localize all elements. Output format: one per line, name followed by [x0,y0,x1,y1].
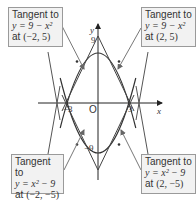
tangent-line-upper-right [98,36,134,111]
x-tick-neg3: −3 [63,104,73,114]
callout-equation: y = x² − 9 [15,178,60,189]
callout-top-right: Tangent to y = 9 − x² at (2, 5) [141,7,196,47]
y-tick-neg9: −9 [84,143,94,153]
callout-title: Tangent to [145,9,192,20]
tangent-point-lower-right [118,143,121,146]
callout-title: Tangent to [12,9,59,20]
callout-point: at (2, −5) [145,178,192,189]
callout-equation: y = 9 − x² [145,20,192,31]
callout-title: Tangent to [15,156,60,178]
x-axis-label: x [156,106,161,116]
y-tick-9: 9 [91,35,96,45]
tangent-line-upper-left [62,36,98,111]
callout-bottom-right: Tangent to y = x² − 9 at (2, −5) [141,154,196,194]
pointer-top-left [62,26,84,69]
tangent-point-upper-left [76,60,79,63]
callout-point: at (−2, 5) [12,31,59,42]
pointer-bottom-left [64,130,84,170]
outer-line-left-top [48,52,60,120]
y-axis-label: y [89,25,94,35]
callout-title: Tangent to [145,156,192,167]
tangent-point-upper-right [118,60,121,63]
callout-point: at (−2, −5) [15,189,60,200]
callout-point: at (2, 5) [145,31,192,42]
pointer-bottom-right [121,130,141,170]
callout-equation: y = x² − 9 [145,167,192,178]
x-tick-3: 3 [128,104,133,114]
callout-bottom-left: Tangent to y = x² − 9 at (−2, −5) [11,154,64,194]
origin-label: O [89,104,97,115]
outer-line-right-bottom [136,86,148,154]
outer-line-right-top [136,52,148,120]
callout-top-left: Tangent to y = 9 − x² at (−2, 5) [8,7,63,47]
callout-equation: y = 9 − x² [12,20,59,31]
pointer-top-right [118,28,141,69]
outer-line-left-bottom [48,86,60,154]
